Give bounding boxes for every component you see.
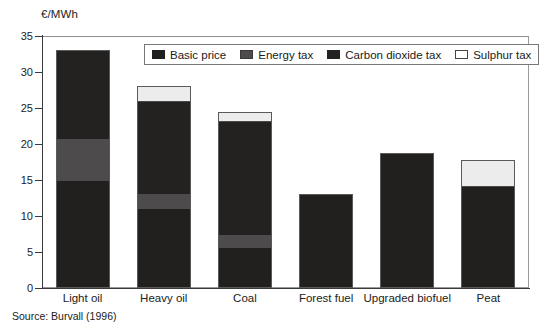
x-axis-tick-label: Peat	[477, 292, 501, 304]
chart-figure: €/MWh 05101520253035 Light oilHeavy oilC…	[0, 0, 540, 332]
y-axis-tick-label: 15	[5, 174, 33, 186]
bar-group[interactable]	[380, 36, 434, 288]
bar-segment[interactable]	[56, 181, 110, 288]
bar-stack	[218, 112, 272, 288]
bar-segment[interactable]	[56, 139, 110, 181]
source-note: Source: Burvall (1996)	[12, 310, 116, 322]
x-axis-tick-label: Upgraded biofuel	[363, 292, 451, 304]
bar-group[interactable]	[461, 36, 515, 288]
y-axis-tick-label: 25	[5, 102, 33, 114]
bar-stack	[299, 194, 353, 288]
y-axis-tick-label: 10	[5, 210, 33, 222]
y-axis-tick-label: 35	[5, 30, 33, 42]
x-axis-tick-label: Light oil	[63, 292, 103, 304]
bar-segment[interactable]	[218, 122, 272, 234]
bar-segment[interactable]	[137, 209, 191, 288]
bar-segment[interactable]	[137, 102, 191, 194]
bar-segment[interactable]	[218, 248, 272, 288]
legend-item[interactable]: Basic price	[152, 49, 226, 61]
y-axis-tick	[35, 252, 43, 253]
y-axis-tick	[35, 288, 43, 289]
bar-group[interactable]	[299, 36, 353, 288]
bar-stack	[380, 153, 434, 288]
x-axis-tick-label: Heavy oil	[140, 292, 187, 304]
y-axis-tick-label: 0	[5, 282, 33, 294]
bar-group[interactable]	[218, 36, 272, 288]
legend-item-label: Sulphur tax	[473, 49, 531, 61]
bar-stack	[461, 160, 515, 288]
y-axis-tick	[35, 72, 43, 73]
y-axis-tick-label: 30	[5, 66, 33, 78]
y-axis-tick	[35, 180, 43, 181]
bar-segment[interactable]	[137, 86, 191, 102]
legend-item[interactable]: Carbon dioxide tax	[327, 49, 441, 61]
bar-segment[interactable]	[137, 194, 191, 208]
legend-swatch-icon	[152, 50, 165, 59]
chart-legend: Basic priceEnergy taxCarbon dioxide taxS…	[144, 44, 539, 65]
y-axis-tick	[35, 36, 43, 37]
y-axis-tick	[35, 108, 43, 109]
bars-layer	[42, 36, 529, 288]
bar-group[interactable]	[56, 36, 110, 288]
legend-swatch-icon	[455, 50, 468, 59]
bar-stack	[137, 86, 191, 288]
bar-stack	[56, 50, 110, 288]
bar-segment[interactable]	[218, 235, 272, 249]
legend-item[interactable]: Sulphur tax	[455, 49, 531, 61]
bar-segment[interactable]	[299, 194, 353, 288]
y-axis-labels: 05101520253035	[0, 0, 33, 332]
y-axis-unit-label: €/MWh	[41, 8, 78, 20]
x-axis-tick-label: Coal	[233, 292, 257, 304]
bar-segment[interactable]	[461, 187, 515, 288]
bar-segment[interactable]	[461, 160, 515, 187]
y-axis-tick	[35, 216, 43, 217]
legend-item[interactable]: Energy tax	[240, 49, 313, 61]
bar-group[interactable]	[137, 36, 191, 288]
y-axis-tick-label: 5	[5, 246, 33, 258]
bar-segment[interactable]	[380, 153, 434, 288]
bar-segment[interactable]	[218, 112, 272, 123]
legend-swatch-icon	[327, 50, 340, 59]
legend-swatch-icon	[240, 50, 253, 59]
y-axis-tick-label: 20	[5, 138, 33, 150]
y-axis-tick	[35, 144, 43, 145]
legend-item-label: Energy tax	[258, 49, 313, 61]
bar-segment[interactable]	[56, 50, 110, 139]
legend-item-label: Carbon dioxide tax	[345, 49, 441, 61]
x-axis-tick-label: Forest fuel	[299, 292, 353, 304]
legend-item-label: Basic price	[170, 49, 226, 61]
x-axis-line	[42, 288, 530, 289]
